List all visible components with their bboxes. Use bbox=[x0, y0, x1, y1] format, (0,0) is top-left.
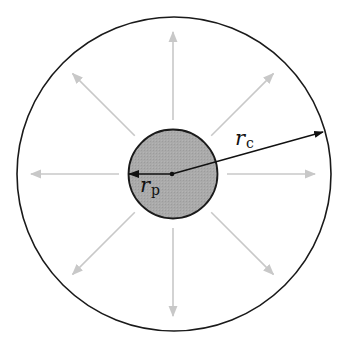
rp-label-sub: p bbox=[151, 182, 160, 198]
rc-label: rc bbox=[235, 126, 254, 151]
radial-arrow bbox=[211, 212, 273, 274]
radial-arrow bbox=[73, 74, 135, 136]
center-dot bbox=[170, 172, 175, 177]
radial-arrow bbox=[73, 212, 135, 274]
rc-label-sub: c bbox=[246, 135, 254, 151]
diagram-canvas: rc rp bbox=[0, 0, 344, 351]
